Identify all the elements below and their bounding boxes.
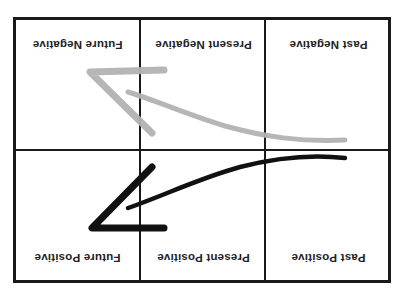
cell-label: Present Positive	[141, 252, 266, 264]
cell-label: Future Positive	[15, 252, 140, 264]
cell-label: Past Positive	[266, 252, 391, 264]
cell-label: Past Negative	[266, 39, 391, 51]
cell-future-positive: Future Positive	[15, 151, 140, 284]
cell-past-negative: Past Negative	[266, 19, 391, 152]
cell-label: Present Negative	[141, 39, 266, 51]
cell-label: Future Negative	[15, 39, 140, 51]
cell-present-negative: Present Negative	[141, 19, 266, 152]
cell-past-positive: Past Positive	[266, 151, 391, 284]
cell-present-positive: Present Positive	[141, 151, 266, 284]
cell-future-negative: Future Negative	[15, 19, 140, 152]
